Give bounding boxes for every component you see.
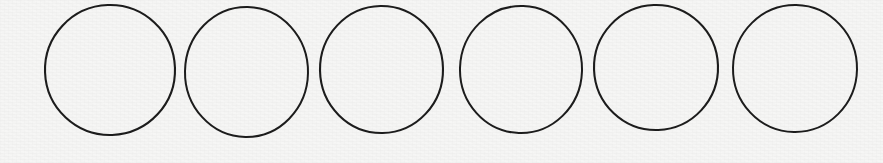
circle-row-figure [0,0,883,163]
circle-4[interactable] [458,4,584,135]
circle-1[interactable] [43,3,177,137]
circle-2[interactable] [184,6,309,138]
drawing-canvas [0,0,883,163]
circle-6[interactable] [732,4,858,133]
circle-5[interactable] [592,3,720,132]
circle-3[interactable] [319,5,444,134]
